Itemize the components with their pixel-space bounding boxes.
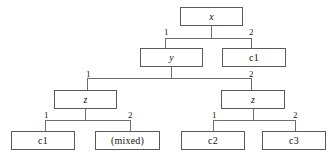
- edge-segment-stem-y: [171, 67, 172, 78]
- tree-node-label: z: [83, 94, 87, 104]
- edge-segment-stem-z2: [253, 109, 254, 120]
- edge-segment-bar-root: [165, 38, 251, 39]
- tree-node-l3a[interactable]: z: [54, 90, 117, 109]
- tree-node-label: x: [209, 11, 214, 21]
- edge-segment-drop-1-1: [165, 38, 166, 48]
- edge-segment-stem-z1: [85, 109, 86, 120]
- edge-segment-drop-3-1: [45, 120, 46, 131]
- tree-node-l4a[interactable]: c1: [11, 131, 75, 150]
- tree-node-label: z: [251, 94, 255, 104]
- edge-segment-drop-3-2: [130, 120, 131, 131]
- edge-index-label-e4-1: 1: [212, 111, 217, 120]
- edge-segment-bar-z2: [213, 120, 295, 121]
- edge-index-label-e2-2: 2: [249, 70, 254, 79]
- tree-node-label: c2: [208, 135, 218, 145]
- edge-index-label-e1-2: 2: [249, 28, 254, 37]
- tree-node-label: c1: [38, 135, 48, 145]
- edge-segment-drop-4-2: [295, 120, 296, 131]
- tree-node-l2a[interactable]: y: [140, 48, 203, 67]
- tree-node-l4c[interactable]: c2: [181, 131, 245, 150]
- tree-node-label: c1: [249, 52, 259, 62]
- edge-segment-bar-y: [87, 78, 252, 79]
- edge-segment-drop-1-2: [251, 38, 252, 48]
- tree-node-l4b[interactable]: (mixed): [95, 131, 160, 150]
- tree-node-label: (mixed): [111, 135, 144, 145]
- edge-segment-bar-z1: [45, 120, 130, 121]
- tree-node-l4d[interactable]: c3: [262, 131, 326, 150]
- edge-segment-drop-2-2: [251, 78, 252, 90]
- edge-index-label-e3-1: 1: [44, 111, 49, 120]
- tree-node-root[interactable]: x: [180, 7, 243, 26]
- edge-index-label-e1-1: 1: [164, 28, 169, 37]
- edge-segment-stem-root: [211, 26, 212, 38]
- tree-node-label: y: [169, 52, 174, 62]
- tree-node-label: c3: [289, 135, 299, 145]
- edge-index-label-e4-2: 2: [293, 111, 298, 120]
- tree-diagram-canvas: xyc1zzc1(mixed)c2c3 12121212: [0, 0, 336, 161]
- tree-node-l2b[interactable]: c1: [222, 48, 286, 67]
- edge-segment-drop-4-1: [213, 120, 214, 131]
- tree-node-l3b[interactable]: z: [221, 90, 285, 109]
- edge-index-label-e3-2: 2: [128, 111, 133, 120]
- edge-index-label-e2-1: 1: [86, 70, 91, 79]
- edge-segment-drop-2-1: [87, 78, 88, 90]
